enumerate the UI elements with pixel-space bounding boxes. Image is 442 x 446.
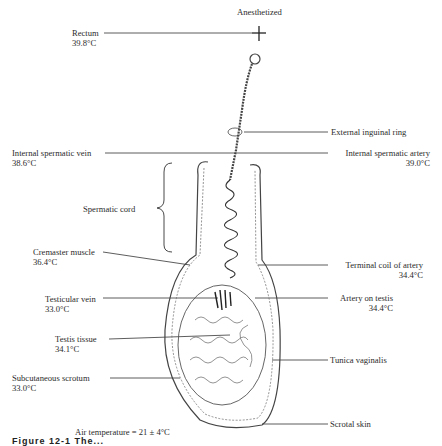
label-cremaster-muscle: Cremaster muscle 36.4°C [33, 247, 95, 267]
figure-caption: Figure 12-1 The... [12, 436, 104, 446]
leader-testis-tissue [109, 335, 230, 339]
label-name: Internal spermatic artery [331, 148, 430, 158]
label-temp: 38.6°C [12, 158, 91, 168]
label-temp: 34.1°C [55, 344, 97, 354]
label-rectum: Rectum 39.8°C [72, 28, 99, 48]
label-testicular-vein: Testicular vein 33.0°C [45, 294, 96, 314]
scrotum-outline [165, 162, 280, 428]
label-artery-on-testis: Artery on testis 34.4°C [331, 293, 393, 313]
label-name: Subcutaneous scrotum [12, 373, 90, 383]
label-subcutaneous-scrotum: Subcutaneous scrotum 33.0°C [12, 373, 90, 393]
label-internal-spermatic-artery: Internal spermatic artery 39.0°C [331, 148, 430, 168]
label-temp: 39.0°C [331, 158, 430, 168]
label-name: Terminal coil of artery [331, 260, 423, 270]
label-temp: 34.4°C [331, 270, 423, 280]
label-name: Testis tissue [55, 334, 97, 344]
label-name: Internal spermatic vein [12, 148, 91, 158]
label-name: Artery on testis [331, 293, 393, 303]
label-temp: 39.8°C [72, 38, 99, 48]
label-spermatic-cord: Spermatic cord [83, 204, 135, 214]
rectal-probe-icon [252, 26, 266, 41]
label-name: Testicular vein [45, 294, 96, 304]
label-temp: 33.0°C [45, 304, 96, 314]
label-name: Rectum [72, 28, 99, 38]
label-temp: 34.4°C [331, 303, 393, 313]
label-scrotal-skin: Scrotal skin [330, 419, 371, 429]
label-temp: 36.4°C [33, 257, 95, 267]
leader-cremaster [103, 252, 190, 265]
label-testis-tissue: Testis tissue 34.1°C [55, 334, 97, 354]
label-external-inguinal-ring: External inguinal ring [331, 127, 406, 137]
condition-label: Anesthetized [237, 7, 282, 17]
label-temp: 33.0°C [12, 383, 90, 393]
label-tunica-vaginalis: Tunica vaginalis [330, 355, 387, 365]
spermatic-cord-brace [157, 163, 172, 252]
label-name: Cremaster muscle [33, 247, 95, 257]
label-terminal-coil-of-artery: Terminal coil of artery 34.4°C [331, 260, 423, 280]
label-internal-spermatic-vein: Internal spermatic vein 38.6°C [12, 148, 91, 168]
